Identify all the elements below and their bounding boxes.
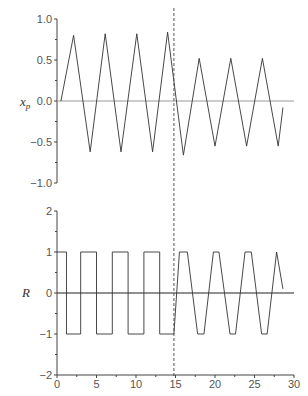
y-tick-label: 1.0 — [37, 13, 52, 25]
y-tick-label: −1.0 — [30, 177, 52, 189]
y-tick-label: 1 — [46, 246, 52, 258]
y-tick-label: −2 — [39, 369, 52, 381]
x-tick-label: 20 — [209, 378, 221, 390]
y-tick-label: 0 — [46, 287, 52, 299]
y-tick-label: −0.5 — [30, 136, 52, 148]
x-tick-label: 15 — [169, 378, 181, 390]
chart-canvas: 1.00.50.0−0.5−1.0 210−1−2051015202530 xp… — [0, 0, 308, 396]
x-tick-label: 25 — [248, 378, 260, 390]
bottom-plot-r: 210−1−2051015202530 — [39, 205, 300, 390]
series-line-x_p — [61, 32, 283, 155]
top-plot-xp: 1.00.50.0−0.5−1.0 — [30, 13, 294, 189]
y-tick-label: 0.5 — [37, 54, 52, 66]
y-tick-label: 0.0 — [37, 95, 52, 107]
top-y-axis-label: xp — [19, 94, 31, 111]
x-tick-label: 30 — [288, 378, 300, 390]
x-tick-label: 5 — [93, 378, 99, 390]
y-tick-label: 2 — [46, 205, 52, 217]
y-tick-label: −1 — [39, 328, 52, 340]
bottom-y-axis-label: R — [21, 285, 30, 300]
x-tick-label: 10 — [130, 378, 142, 390]
x-tick-label: 0 — [54, 378, 60, 390]
